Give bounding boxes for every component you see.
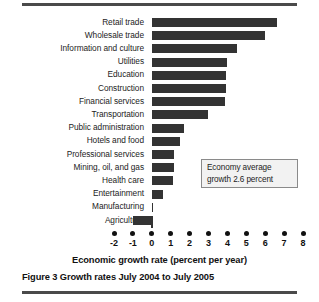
category-label: Health care	[12, 174, 144, 186]
chart-row: Manufacturing	[0, 201, 319, 214]
axis-tick-dot	[187, 231, 192, 236]
category-label: Agriculture	[12, 214, 144, 226]
chart-row: Retail trade	[0, 16, 319, 29]
figure-caption: Figure 3 Growth rates July 2004 to July …	[22, 272, 312, 282]
top-rule	[22, 3, 297, 6]
axis-tick-dot	[263, 231, 268, 236]
axis-tick-dot	[282, 231, 287, 236]
bottom-rule	[22, 291, 297, 294]
chart-bar	[152, 190, 163, 199]
figure-container: Retail tradeWholesale tradeInformation a…	[0, 0, 319, 302]
chart-bar	[152, 58, 228, 67]
x-axis: -2-1012345678	[0, 228, 319, 254]
chart-row: Information and culture	[0, 42, 319, 55]
category-label: Manufacturing	[12, 200, 144, 212]
economy-average-callout: Economy average growth 2.6 percent	[201, 159, 298, 188]
category-label: Utilities	[12, 55, 144, 67]
chart-bar	[152, 44, 237, 53]
chart-bar	[152, 84, 226, 93]
category-label: Transportation	[12, 108, 144, 120]
chart-row: Education	[0, 69, 319, 82]
chart-bar	[152, 31, 265, 40]
axis-tick-dot	[225, 231, 230, 236]
chart-bar	[152, 110, 209, 119]
chart-row: Transportation	[0, 108, 319, 121]
chart-row: Hotels and food	[0, 135, 319, 148]
axis-tick-dot	[244, 231, 249, 236]
category-label: Professional services	[12, 148, 144, 160]
category-label: Education	[12, 68, 144, 80]
axis-tick-dot	[112, 231, 117, 236]
chart-bar	[152, 150, 175, 159]
chart-bar	[152, 18, 277, 27]
chart-row: Agriculture	[0, 214, 319, 227]
category-label: Construction	[12, 82, 144, 94]
callout-line-2: growth 2.6 percent	[207, 174, 293, 186]
chart-bar	[152, 163, 175, 172]
chart-bar	[152, 137, 180, 146]
category-label: Information and culture	[12, 42, 144, 54]
axis-tick-label: 8	[292, 238, 314, 248]
chart-row: Construction	[0, 82, 319, 95]
chart-bar	[133, 216, 152, 225]
chart-row: Public administration	[0, 122, 319, 135]
x-axis-title: Economic growth rate (percent per year)	[0, 255, 319, 265]
category-label: Retail trade	[12, 16, 144, 28]
category-label: Hotels and food	[12, 134, 144, 146]
axis-tick-dot	[130, 231, 135, 236]
chart-row: Utilities	[0, 56, 319, 69]
axis-tick-dot	[168, 231, 173, 236]
category-label: Entertainment	[12, 187, 144, 199]
zero-baseline	[151, 216, 152, 228]
chart-plot-area: Retail tradeWholesale tradeInformation a…	[0, 16, 319, 228]
callout-line-1: Economy average	[207, 162, 293, 174]
axis-tick-dot	[301, 231, 306, 236]
chart-bar	[152, 176, 173, 185]
chart-bar	[152, 97, 225, 106]
category-label: Wholesale trade	[12, 29, 144, 41]
category-label: Financial services	[12, 95, 144, 107]
axis-tick-dot	[206, 231, 211, 236]
chart-row: Wholesale trade	[0, 29, 319, 42]
chart-row: Entertainment	[0, 188, 319, 201]
axis-tick-dot	[149, 231, 154, 236]
chart-bar	[152, 71, 226, 80]
chart-bar	[152, 124, 184, 133]
category-label: Mining, oil, and gas	[12, 161, 144, 173]
category-label: Public administration	[12, 121, 144, 133]
chart-bar	[152, 203, 153, 212]
chart-row: Financial services	[0, 95, 319, 108]
